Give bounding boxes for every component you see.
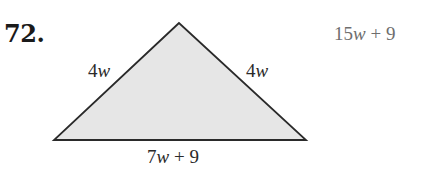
answer-constant: + 9 <box>366 23 396 44</box>
left-side-coefficient: 4 <box>88 60 98 81</box>
left-side-variable: w <box>98 60 111 81</box>
answer-coefficient: 15 <box>334 23 353 44</box>
bottom-side-constant: + 9 <box>169 146 199 167</box>
left-side-label: 4w <box>88 60 110 82</box>
bottom-side-coefficient: 7 <box>147 146 157 167</box>
bottom-side-label: 7w + 9 <box>147 146 199 168</box>
answer-variable: w <box>353 23 366 44</box>
perimeter-answer: 15w + 9 <box>334 23 395 45</box>
bottom-side-variable: w <box>157 146 170 167</box>
right-side-label: 4w <box>246 60 268 82</box>
right-side-variable: w <box>256 60 269 81</box>
right-side-coefficient: 4 <box>246 60 256 81</box>
